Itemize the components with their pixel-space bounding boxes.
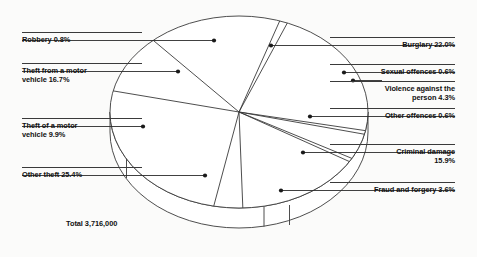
label-theft-of-motor-vehicle: Theft of a motor vehicle 9.9% <box>22 118 142 139</box>
label-other-offences: Other offences 0.6% <box>330 108 455 120</box>
label-total: Total 3,716,000 <box>66 219 206 228</box>
dot-fraud-forgery <box>279 188 283 192</box>
dot-criminal-damage <box>301 150 305 154</box>
dot-other-offences <box>308 114 312 118</box>
label-violence-against-the-person: Violence against the person 4.3% <box>330 81 455 102</box>
dot-burglary <box>269 43 273 47</box>
label-other-theft: Other theft 25.4% <box>22 167 142 179</box>
label-criminal-damage: Criminal damage 15.9% <box>330 144 455 165</box>
label-fraud-and-forgery: Fraud and forgery 3.6% <box>330 182 455 194</box>
label-theft-from-motor-vehicle: Theft from a motor vehicle 16.7% <box>22 63 142 84</box>
dot-other-theft <box>203 173 207 177</box>
label-robbery: Robbery 0.8% <box>22 32 142 44</box>
dot-robbery <box>212 38 216 42</box>
dot-theft-from-mv <box>176 69 180 73</box>
pie-chart-figure: Robbery 0.8% Theft from a motor vehicle … <box>0 0 477 257</box>
label-burglary: Burglary 22.0% <box>330 37 455 49</box>
label-sexual-offences: Sexual offences 0.6% <box>330 64 455 76</box>
